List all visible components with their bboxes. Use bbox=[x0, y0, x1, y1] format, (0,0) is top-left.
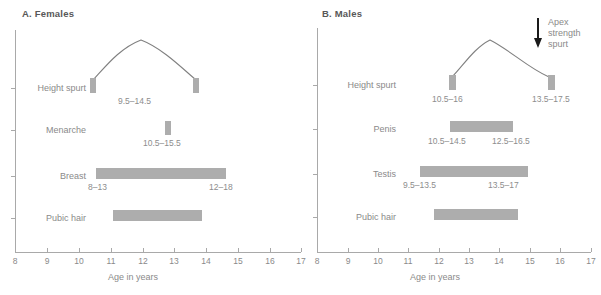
x-axis-title-a: Age in years bbox=[108, 272, 158, 282]
menarche-marker-a bbox=[165, 121, 171, 135]
range-label-b-penis-right: 12.5–16.5 bbox=[492, 136, 530, 146]
range-label-b-penis-left: 10.5–14.5 bbox=[428, 136, 466, 146]
panel-females: A. Females 8 9 10 11 12 13 14 15 16 17 H… bbox=[0, 0, 300, 295]
range-label-b-height-spurt-left: 10.5–16 bbox=[432, 94, 463, 104]
apex-strength-spurt-line-3: spurt bbox=[548, 39, 568, 50]
breast-bar-a bbox=[96, 168, 226, 179]
pubic-hair-bar-b bbox=[434, 209, 518, 220]
x-axis-title-b: Age in years bbox=[410, 272, 460, 282]
range-label-a-breast-right: 12–18 bbox=[209, 182, 233, 192]
testis-bar-b bbox=[420, 166, 528, 177]
apex-strength-spurt-line-1: Apex bbox=[548, 17, 569, 28]
range-label-b-height-spurt-right: 13.5–17.5 bbox=[532, 94, 570, 104]
height-spurt-end-marker-b bbox=[548, 75, 555, 90]
range-label-b-testis-right: 13.5–17 bbox=[488, 180, 519, 190]
range-label-a-height-spurt: 9.5–14.5 bbox=[118, 96, 151, 106]
down-arrow-icon bbox=[533, 18, 545, 48]
range-label-a-menarche: 10.5–15.5 bbox=[143, 138, 181, 148]
range-label-b-testis-left: 9.5–13.5 bbox=[403, 180, 436, 190]
panel-males: B. Males 8 9 10 11 12 13 14 15 16 17 Hei… bbox=[300, 0, 600, 295]
pubic-hair-bar-a bbox=[113, 210, 202, 221]
height-spurt-start-marker-b bbox=[449, 75, 456, 90]
range-label-a-breast-left: 8–13 bbox=[88, 182, 107, 192]
penis-bar-b bbox=[450, 121, 513, 132]
height-spurt-start-marker-a bbox=[90, 78, 96, 93]
apex-strength-spurt-line-2: strength bbox=[548, 28, 581, 39]
height-spurt-end-marker-a bbox=[193, 78, 199, 93]
